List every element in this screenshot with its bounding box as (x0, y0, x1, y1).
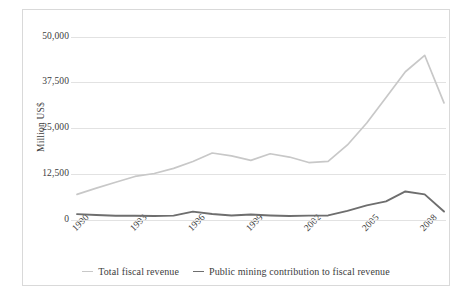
legend-line-swatch (82, 271, 93, 272)
legend-label: Total fiscal revenue (98, 266, 179, 277)
chart-figure: Million US$ 50,00037,50025,00012,5000 19… (22, 9, 450, 286)
plot-area (23, 10, 451, 287)
legend-line-swatch (193, 271, 204, 272)
legend-label: Public mining contribution to fiscal rev… (209, 266, 390, 277)
chart-legend: Total fiscal revenuePublic mining contri… (23, 266, 449, 277)
legend-entry[interactable]: Public mining contribution to fiscal rev… (193, 266, 390, 277)
legend-entry[interactable]: Total fiscal revenue (82, 266, 179, 277)
line-series (77, 191, 444, 216)
line-series (77, 55, 444, 194)
